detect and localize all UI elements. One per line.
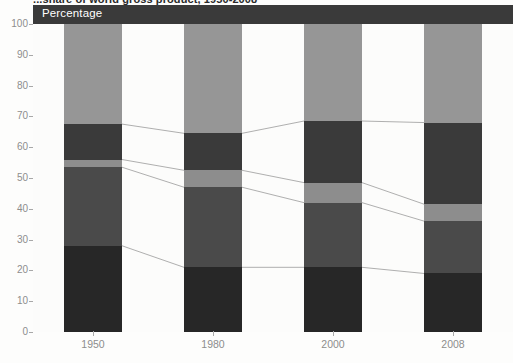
bar-segment-segment_1[interactable]	[64, 246, 122, 332]
bar-segment-segment_3[interactable]	[424, 204, 482, 221]
y-axis-tick-label: 50	[0, 172, 28, 183]
y-axis-tick	[29, 301, 33, 302]
y-axis-tick	[29, 55, 33, 56]
x-axis-tick	[213, 331, 214, 336]
bar-segment-segment_2[interactable]	[304, 203, 362, 268]
connector-line	[122, 160, 184, 171]
x-axis-tick-label-2008: 2008	[441, 338, 464, 350]
connector-line	[242, 170, 304, 182]
bar-segment-segment_4[interactable]	[304, 121, 362, 183]
percentage-header-band: Percentage	[33, 5, 513, 24]
bar-segment-segment_4[interactable]	[64, 124, 122, 159]
connector-line	[362, 267, 424, 273]
bar-segment-segment_2[interactable]	[424, 221, 482, 273]
bar-segment-segment_2[interactable]	[64, 167, 122, 246]
connector-line	[122, 246, 184, 268]
y-axis-tick	[29, 86, 33, 87]
y-axis-tick	[29, 178, 33, 179]
connector-line	[362, 183, 424, 205]
bar-segment-segment_5[interactable]	[64, 24, 122, 124]
connector-line	[362, 203, 424, 221]
y-axis-tick-label: 0	[0, 326, 28, 337]
bar-segment-segment_5[interactable]	[304, 24, 362, 121]
y-axis-tick	[29, 24, 33, 25]
chart-figure: ...share of world gross product, 1950-20…	[0, 0, 513, 363]
y-axis-tick	[29, 209, 33, 210]
x-axis-tick-label-1980: 1980	[201, 338, 224, 350]
bar-segment-segment_2[interactable]	[184, 187, 242, 267]
y-axis-tick-label: 60	[0, 141, 28, 152]
y-axis-tick	[29, 147, 33, 148]
bar-1950[interactable]	[64, 24, 122, 332]
connector-line	[122, 167, 184, 187]
bar-segment-segment_4[interactable]	[424, 123, 482, 205]
y-axis-tick	[29, 332, 33, 333]
bar-2000[interactable]	[304, 24, 362, 332]
y-axis-tick-label: 40	[0, 203, 28, 214]
y-axis-tick-label: 80	[0, 80, 28, 91]
bar-segment-segment_3[interactable]	[304, 183, 362, 203]
x-axis-tick	[453, 331, 454, 336]
connector-line	[242, 187, 304, 202]
y-axis-tick	[29, 116, 33, 117]
bar-segment-segment_1[interactable]	[184, 267, 242, 332]
x-axis-tick	[93, 331, 94, 336]
y-axis-tick-label: 100	[0, 18, 28, 29]
plot-area	[33, 24, 513, 332]
y-axis-tick-label: 20	[0, 264, 28, 275]
bar-1980[interactable]	[184, 24, 242, 332]
bar-segment-segment_3[interactable]	[64, 160, 122, 168]
bar-segment-segment_3[interactable]	[184, 170, 242, 187]
connector-line	[362, 121, 424, 123]
y-axis-tick-label: 30	[0, 234, 28, 245]
y-axis-tick	[29, 270, 33, 271]
y-axis-title: Percentage	[42, 7, 102, 19]
x-axis-tick	[333, 331, 334, 336]
y-axis-tick	[29, 240, 33, 241]
y-axis-tick-label: 90	[0, 49, 28, 60]
bar-segment-segment_5[interactable]	[424, 24, 482, 123]
connector-line	[242, 121, 304, 133]
x-axis-tick-label-2000: 2000	[321, 338, 344, 350]
connector-line	[122, 124, 184, 133]
bar-segment-segment_4[interactable]	[184, 133, 242, 170]
bar-segment-segment_1[interactable]	[424, 273, 482, 332]
x-axis-tick-label-1950: 1950	[81, 338, 104, 350]
y-axis-tick-label: 10	[0, 295, 28, 306]
y-axis-tick-label: 70	[0, 110, 28, 121]
bar-segment-segment_1[interactable]	[304, 267, 362, 332]
bar-2008[interactable]	[424, 24, 482, 332]
bar-segment-segment_5[interactable]	[184, 24, 242, 133]
